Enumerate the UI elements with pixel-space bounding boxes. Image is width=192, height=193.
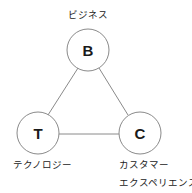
node-letter-b: B bbox=[83, 42, 94, 59]
btc-triangle-diagram: B ビジネス T テクノロジー C カスタマー エクスペリエンス bbox=[0, 0, 192, 193]
edge-b-c bbox=[99, 68, 128, 115]
node-label-business: ビジネス bbox=[68, 9, 108, 20]
edge-b-t bbox=[48, 68, 78, 115]
node-label-technology: テクノロジー bbox=[13, 159, 72, 170]
node-business: B ビジネス bbox=[67, 9, 109, 71]
node-technology: T テクノロジー bbox=[13, 112, 72, 170]
node-letter-t: T bbox=[33, 125, 42, 142]
node-label-customer-line1: カスタマー bbox=[119, 159, 169, 170]
node-label-customer-line2: エクスペリエンス bbox=[119, 177, 192, 188]
node-letter-c: C bbox=[135, 125, 146, 142]
node-customer-experience: C カスタマー エクスペリエンス bbox=[119, 112, 192, 188]
